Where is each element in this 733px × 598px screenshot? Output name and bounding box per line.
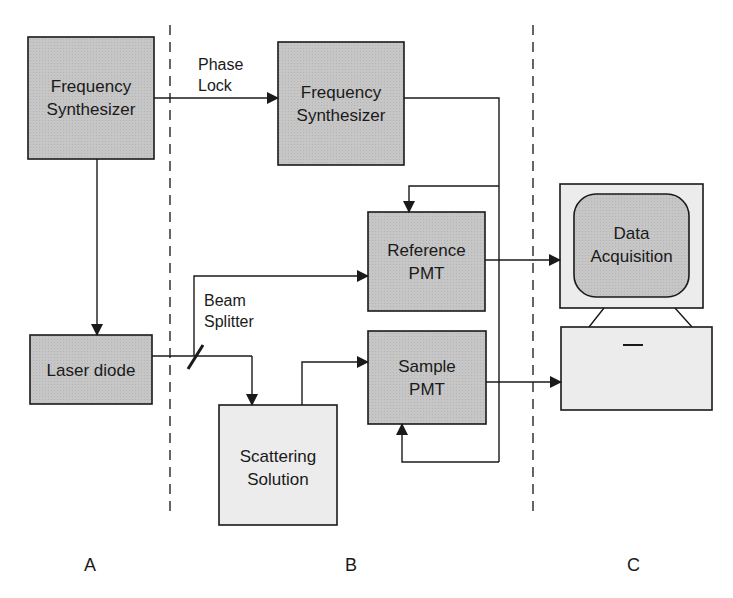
data-acquisition-label: Data Acquisition: [574, 222, 689, 268]
phase-lock-annotation: Phase Lock: [198, 54, 243, 96]
freq-synth-a-label: Frequency Synthesizer: [28, 75, 154, 121]
monitor-stand: [589, 308, 692, 327]
section-label-c: C: [627, 555, 640, 576]
freq-synth-b-label: Frequency Synthesizer: [278, 81, 404, 127]
section-label-b: B: [345, 555, 357, 576]
beam-splitter-annotation: Beam Splitter: [204, 290, 254, 332]
synth-b-to-ref-pmt-arrow: [409, 186, 499, 212]
section-label-a: A: [84, 555, 96, 576]
synth-b-to-sample-pmt-arrow: [402, 424, 499, 462]
scattering-to-sample-pmt-arrow: [302, 362, 368, 405]
laser-diode-label: Laser diode: [30, 359, 152, 382]
scattering-solution-label: Scattering Solution: [219, 445, 337, 491]
reference-pmt-label: Reference PMT: [368, 239, 485, 285]
sample-pmt-label: Sample PMT: [368, 355, 486, 401]
beam-splitter-mirror: [188, 345, 203, 369]
computer-base: [561, 327, 712, 410]
